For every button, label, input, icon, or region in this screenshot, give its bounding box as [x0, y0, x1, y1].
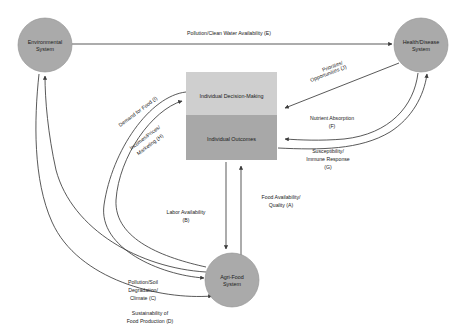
node-label-environmental-system-line2: System	[36, 46, 54, 52]
edge-label-A-line1: Food Availability/	[262, 194, 301, 200]
edge-label-G-line2: Immune Response	[306, 156, 350, 162]
edge-label-G-line1: Susceptibility/	[312, 148, 344, 154]
edge-label-C-line2: Degradation/	[128, 287, 158, 293]
edge-label-A-line2: Quality (A)	[269, 202, 294, 208]
edge-label-E: Pollution/Clean Water Availability (E)	[187, 30, 271, 36]
edge-label-D-line2: Food Production (D)	[127, 318, 174, 324]
edge-F-path	[285, 73, 418, 140]
edge-label-F-line1: Nutrient Absorption	[310, 115, 354, 121]
node-label-agri-food-system-line2: System	[223, 281, 241, 287]
node-label-health-disease-system-line2: System	[412, 46, 430, 52]
edge-label-D-line1: Sustainability of	[132, 310, 169, 316]
node-label-individual-decision-making: Individual Decision-Making	[199, 93, 263, 99]
edge-label-F-line2: (F)	[329, 123, 336, 129]
edge-label-C-line1: Pollution/Soil	[128, 279, 158, 285]
diagram-canvas-container: Individual Decision-Making Individual Ou…	[0, 0, 467, 336]
edge-C-path	[45, 76, 206, 272]
system-diagram: Individual Decision-Making Individual Ou…	[0, 0, 467, 336]
edge-label-G-line3: (G)	[324, 164, 332, 170]
node-health-disease-system[interactable]	[394, 18, 448, 72]
edge-D-path	[36, 74, 212, 296]
node-label-agri-food-system-line1: Agri-Food	[220, 274, 244, 280]
node-label-individual-outcomes: Individual Outcomes	[207, 136, 256, 142]
edge-label-C-line3: Climate (C)	[130, 295, 156, 301]
node-label-environmental-system-line1: Environmental	[28, 39, 62, 45]
node-environmental-system[interactable]	[18, 18, 72, 72]
node-label-health-disease-system-line1: Health/Disease	[403, 39, 440, 45]
edge-label-B-line2: (B)	[183, 217, 190, 223]
edge-label-B-line1: Labor Availability	[167, 209, 206, 215]
node-agri-food-system[interactable]	[205, 253, 259, 307]
edge-label-I: Demand for Food (I)	[117, 95, 158, 128]
